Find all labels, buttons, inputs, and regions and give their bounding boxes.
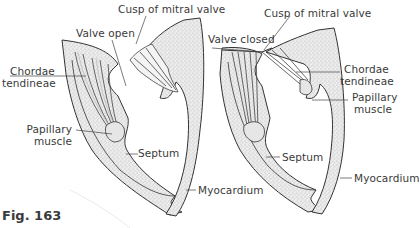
leader-cusp-left	[136, 16, 146, 44]
label-valve-closed: Valve closed	[208, 34, 275, 45]
label-cusp-mitral-valve-right: Cusp of mitral valve	[264, 8, 371, 19]
label-papillary-right-1: Papillary	[352, 92, 398, 103]
label-valve-open: Valve open	[76, 28, 135, 39]
figure-caption: Fig. 163	[2, 208, 61, 223]
label-papillary-right-2: muscle	[354, 104, 392, 115]
label-cusp-mitral-valve-left: Cusp of mitral valve	[118, 4, 225, 15]
label-septum-left: Septum	[138, 148, 179, 159]
label-papillary-left-2: muscle	[20, 136, 72, 147]
label-chordae-right-1: Chordae	[344, 64, 389, 75]
label-papillary-left-1: Papillary	[20, 124, 72, 135]
label-myocardium-right: Myocardium	[354, 173, 420, 184]
label-chordae-left-2: tendineae	[2, 78, 54, 89]
label-myocardium-left: Myocardium	[198, 185, 264, 196]
label-chordae-right-2: tendineae	[340, 76, 394, 87]
label-chordae-left-1: Chordae	[10, 66, 54, 77]
label-septum-right: Septum	[282, 152, 323, 163]
panel-valve-open	[10, 16, 204, 216]
